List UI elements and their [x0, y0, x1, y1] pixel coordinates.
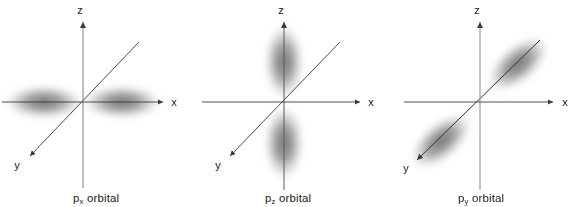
orbital-lobe-negative-y [400, 103, 481, 180]
caption-orbital-suffix: orbital [469, 192, 504, 204]
orbital-panel-py: z x y py orbital [385, 0, 577, 207]
axis-label-z: z [77, 4, 83, 16]
caption-orbital-subscript: y [464, 197, 468, 206]
panel-caption-py: py orbital [385, 192, 577, 204]
axis-label-y: y [403, 162, 409, 174]
axis-label-x: x [562, 96, 568, 108]
axis-label-z: z [278, 4, 284, 16]
axis-label-x: x [171, 96, 177, 108]
orbital-panel-px: z x y px orbital [0, 0, 192, 207]
panel-caption-px: px orbital [0, 192, 192, 204]
p-orbitals-figure: z x y px orbital [0, 0, 577, 207]
panel-caption-pz: pz orbital [192, 192, 384, 204]
axis-label-y: y [14, 159, 20, 171]
axis-label-y: y [215, 159, 221, 171]
axis-label-z: z [474, 4, 480, 16]
caption-orbital-subscript: z [271, 197, 275, 206]
orbital-panel-pz: z x y pz orbital [192, 0, 384, 207]
axis-label-x: x [368, 96, 374, 108]
caption-orbital-suffix: orbital [276, 192, 311, 204]
caption-orbital-subscript: x [79, 197, 83, 206]
caption-orbital-suffix: orbital [84, 192, 119, 204]
axis-line-y [417, 40, 540, 160]
orbital-lobe-positive-y [477, 26, 558, 103]
